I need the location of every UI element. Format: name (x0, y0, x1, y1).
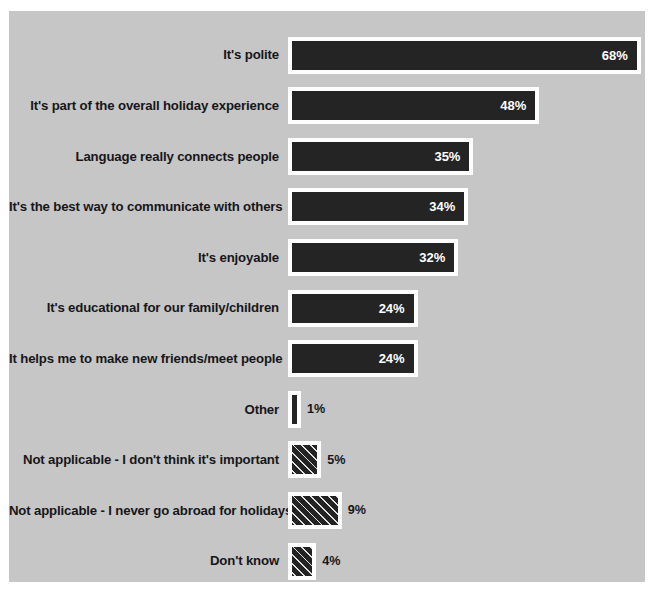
bar-category-label: Language really connects people (9, 149, 288, 164)
bar-category-label: Not applicable - I never go abroad for h… (9, 503, 288, 518)
bar-category-label: Not applicable - I don't think it's impo… (9, 452, 288, 467)
bar-fill: 24% (292, 294, 414, 323)
bar-value-label: 34% (429, 199, 464, 214)
bar-fill (292, 395, 297, 424)
bar-track: 35% (288, 134, 645, 178)
bar-frame[interactable]: 24% (288, 340, 418, 377)
bar-category-label: It's enjoyable (9, 250, 288, 265)
bar-track: 9% (288, 488, 645, 532)
bar-row: It's part of the overall holiday experie… (9, 84, 645, 128)
bar-track: 5% (288, 438, 645, 482)
bar-row: Language really connects people35% (9, 134, 645, 178)
bar-value-label: 68% (602, 48, 637, 63)
bar-frame[interactable] (288, 492, 342, 529)
bar-track: 24% (288, 337, 645, 381)
bar-value-label: 4% (322, 554, 340, 568)
bar-frame[interactable]: 32% (288, 239, 458, 276)
bar-category-label: It's the best way to communicate with ot… (9, 199, 288, 214)
bar-track: 32% (288, 235, 645, 279)
bar-row: Don't know4% (9, 539, 645, 583)
bar-track: 24% (288, 286, 645, 330)
bar-value-label: 32% (419, 250, 454, 265)
bar-frame[interactable]: 48% (288, 87, 539, 124)
bar-value-label: 35% (434, 149, 469, 164)
bar-fill (292, 547, 312, 576)
bar-fill: 24% (292, 344, 414, 373)
bar-value-label: 9% (348, 503, 366, 517)
bar-value-label: 24% (379, 351, 414, 366)
bar-category-label: Other (9, 402, 288, 417)
bar-category-label: It's educational for our family/children (9, 300, 288, 315)
bar-fill: 68% (292, 41, 637, 70)
bar-fill: 48% (292, 91, 535, 120)
bar-row: It's enjoyable32% (9, 235, 645, 279)
bar-frame[interactable] (288, 391, 301, 428)
bar-value-label: 5% (327, 453, 345, 467)
bar-fill (292, 445, 317, 474)
bar-fill (292, 496, 338, 525)
bar-rows-container: It's polite68%It's part of the overall h… (9, 11, 645, 582)
bar-row: It's polite68% (9, 33, 645, 77)
bar-category-label: It helps me to make new friends/meet peo… (9, 351, 288, 366)
bar-row: It helps me to make new friends/meet peo… (9, 337, 645, 381)
bar-row: It's the best way to communicate with ot… (9, 185, 645, 229)
bar-category-label: It's polite (9, 47, 288, 62)
bar-track: 48% (288, 84, 645, 128)
bar-frame[interactable]: 68% (288, 37, 641, 74)
bar-value-label: 24% (379, 301, 414, 316)
bar-frame[interactable]: 35% (288, 138, 473, 175)
bar-row: Not applicable - I never go abroad for h… (9, 488, 645, 532)
bar-track: 68% (288, 33, 645, 77)
bar-frame[interactable] (288, 543, 316, 580)
bar-frame[interactable] (288, 441, 321, 478)
bar-frame[interactable]: 34% (288, 188, 468, 225)
bar-fill: 34% (292, 192, 464, 221)
bar-value-label: 1% (307, 402, 325, 416)
bar-frame[interactable]: 24% (288, 290, 418, 327)
bar-row: Other1% (9, 387, 645, 431)
bar-track: 1% (288, 387, 645, 431)
bar-fill: 35% (292, 142, 469, 171)
bar-track: 4% (288, 539, 645, 583)
bar-track: 34% (288, 185, 645, 229)
bar-row: It's educational for our family/children… (9, 286, 645, 330)
bar-category-label: Don't know (9, 553, 288, 568)
bar-fill: 32% (292, 243, 454, 272)
bar-row: Not applicable - I don't think it's impo… (9, 438, 645, 482)
bar-category-label: It's part of the overall holiday experie… (9, 98, 288, 113)
chart-panel: It's polite68%It's part of the overall h… (9, 11, 645, 582)
bar-value-label: 48% (500, 98, 535, 113)
